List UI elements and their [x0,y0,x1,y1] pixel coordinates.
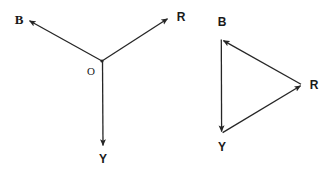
triangle-label-Y: Y [218,141,226,153]
vector-diagram-svg [0,0,329,175]
triangle-label-B: B [218,16,227,28]
left-label-R: R [177,11,186,23]
origin-dot [100,59,103,62]
vector-O-to-R [102,19,168,61]
triangle-edge-R-to-B [223,41,301,85]
triangle-label-R: R [310,79,319,91]
left-diagram-group [30,19,168,146]
left-label-B: B [15,13,24,26]
vector-O-to-B [30,21,103,61]
vector-O-to-Y [103,61,104,146]
triangle-edge-Y-to-R [223,86,301,133]
origin-label-O: O [87,66,95,77]
right-diagram-group [221,40,301,133]
left-label-Y: Y [99,153,107,165]
figure-canvas: B R Y O B R Y [0,0,329,175]
